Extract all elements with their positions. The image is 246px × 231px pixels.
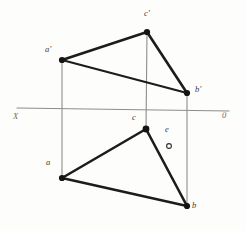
vertex-c-prime [144, 29, 150, 35]
edge-c-b [146, 129, 187, 206]
vertex-a [59, 175, 65, 181]
projector-c [146, 32, 147, 129]
edge-aprime-cprime [62, 32, 147, 60]
label-b: b [192, 201, 196, 210]
figure-canvas [0, 0, 246, 231]
vertex-b-prime [184, 90, 190, 96]
edge-a-b [62, 178, 187, 206]
label-c-prime: c' [144, 9, 150, 18]
label-a: a [46, 158, 50, 167]
label-c: c [132, 113, 136, 122]
vertex-a-prime [59, 57, 65, 63]
projection-figure: a' c' b' a c b e X 0 [0, 0, 246, 231]
label-a-prime: a' [45, 45, 51, 54]
vertex-c [143, 126, 150, 133]
ground-line-xo [17, 108, 229, 111]
edge-a-c [62, 129, 146, 178]
label-ground-line-o: 0 [222, 111, 226, 120]
label-b-prime: b' [195, 85, 201, 94]
point-e-marker [167, 144, 172, 149]
vertex-b [184, 203, 190, 209]
label-e: e [165, 125, 169, 134]
label-ground-line-x: X [13, 112, 18, 121]
